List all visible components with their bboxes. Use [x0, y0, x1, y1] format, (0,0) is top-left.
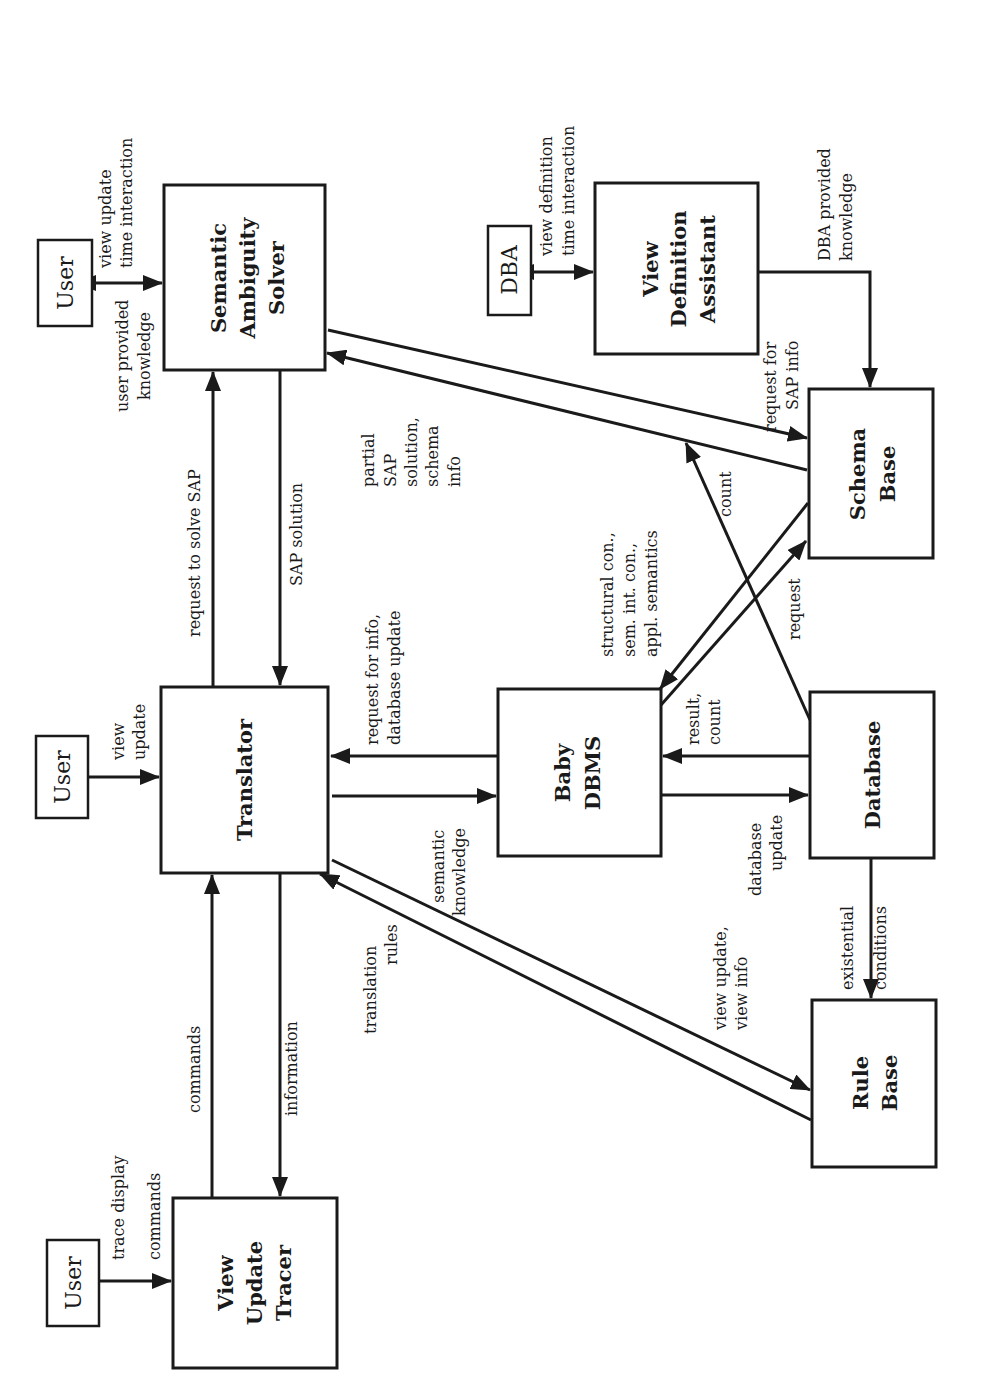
label-request-solve-sap: request to solve SAP	[185, 469, 204, 637]
label-partial-3: solution,	[402, 417, 421, 487]
user-middle-label: User	[50, 750, 75, 804]
label-request: request	[785, 578, 804, 640]
label-dba-provided: DBA provided	[815, 148, 834, 261]
database-label: Database	[860, 721, 885, 830]
vda-line-1: View	[638, 240, 663, 297]
label-partial-2: SAP	[381, 453, 400, 487]
label-count: count	[716, 471, 735, 517]
label-result-count: count	[705, 699, 724, 745]
sas-line-3: Solver	[264, 240, 289, 315]
schema-base-line-2: Base	[875, 446, 900, 503]
label-information: information	[282, 1021, 301, 1116]
rule-base-line-2: Base	[877, 1055, 902, 1112]
schema-base-box	[809, 389, 933, 558]
label-update: update	[130, 704, 149, 760]
label-time-interaction: time interaction	[117, 138, 136, 268]
label-partial-1: partial	[359, 433, 378, 487]
vut-line-2: Update	[242, 1241, 267, 1325]
arrow-partial-sap	[327, 353, 807, 470]
label-view-update-time: view update	[96, 169, 115, 269]
label-partial-4: schema	[423, 425, 442, 487]
vda-line-3: Assistant	[695, 215, 720, 324]
vut-line-3: Tracer	[271, 1244, 296, 1321]
label-rules: rules	[382, 924, 401, 965]
label-request-for-info: request for info,	[363, 614, 382, 745]
vut-line-1: View	[213, 1254, 238, 1311]
label-view-info: view info	[732, 957, 751, 1031]
label-structural-1: structural con.,	[598, 532, 617, 657]
label-trace-display: trace display	[109, 1155, 128, 1260]
label-database: database	[746, 823, 765, 896]
label-db-update: update	[767, 815, 786, 871]
label-structural-3: appl. semantics	[642, 530, 661, 657]
baby-dbms-line-2: DBMS	[580, 736, 605, 810]
label-structural-2: sem. int. con.,	[620, 543, 639, 657]
label-existential: existential	[838, 906, 857, 990]
label-translation: translation	[361, 946, 380, 1034]
system-architecture-diagram: Semantic Ambiguity Solver View Definitio…	[0, 0, 998, 1387]
label-view-definition: view definition	[537, 136, 556, 257]
vda-line-2: Definition	[666, 210, 691, 327]
sas-line-1: Semantic	[206, 223, 231, 333]
label-result: result,	[684, 693, 703, 745]
label-database-update-req: database update	[385, 610, 404, 745]
dba-label: DBA	[497, 244, 522, 295]
label-semantic: semantic	[429, 830, 448, 903]
label-sap-info: SAP info	[783, 341, 802, 410]
baby-dbms-line-1: Baby	[550, 743, 575, 802]
label-conditions: conditions	[871, 906, 890, 990]
label-trace-commands: commands	[145, 1173, 164, 1260]
label-vda-time-interaction: time interaction	[559, 126, 578, 256]
rule-base-line-1: Rule	[848, 1056, 873, 1110]
translator-label: Translator	[232, 718, 257, 841]
label-commands: commands	[185, 1026, 204, 1113]
sas-line-2: Ambiguity	[235, 217, 260, 340]
schema-base-line-1: Schema	[845, 427, 870, 520]
label-knowledge: knowledge	[135, 312, 154, 400]
user-top-label: User	[53, 256, 78, 310]
label-semantic-knowledge: knowledge	[450, 828, 469, 916]
label-request-for: request for	[761, 342, 780, 432]
label-view-update-comma: view update,	[711, 926, 730, 1031]
label-partial-5: info	[445, 456, 464, 487]
rule-base-box	[812, 1000, 936, 1167]
label-view: view	[109, 722, 128, 761]
label-sap-solution: SAP solution	[287, 483, 306, 586]
user-bottom-label: User	[61, 1256, 86, 1310]
label-user-provided: user provided	[113, 300, 132, 412]
label-dba-knowledge: knowledge	[837, 173, 856, 261]
